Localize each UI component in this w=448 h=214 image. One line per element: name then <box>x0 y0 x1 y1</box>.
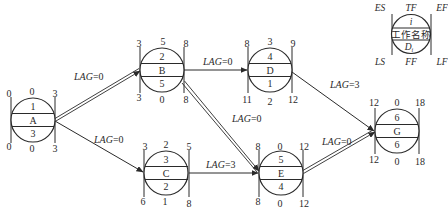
node-duration: 6 <box>395 139 400 150</box>
node-name: D <box>266 65 273 76</box>
node-ff: 2 <box>268 96 273 107</box>
node-duration: 5 <box>160 78 165 89</box>
node-ef: 5 <box>187 141 192 152</box>
legend-ef: EF <box>435 3 448 13</box>
node-ls: 0 <box>7 141 12 152</box>
node-ff: 1 <box>163 196 168 207</box>
node-es: 3 <box>143 141 148 152</box>
legend-lf: LF <box>435 57 447 67</box>
node-ls: 12 <box>369 154 379 165</box>
node-id: 3 <box>164 154 169 165</box>
node-ef: 18 <box>415 97 425 108</box>
node-es: 0 <box>7 88 12 99</box>
node-ef: 12 <box>299 141 309 152</box>
lag-label-d-g: LAG=3 <box>329 79 360 90</box>
node-id: 1 <box>31 101 36 112</box>
legend-node: ES TF EF i 工作名称 Di LS FF LF <box>374 3 448 67</box>
node-es: 8 <box>256 141 261 152</box>
link-a-c: LAG=0 <box>55 121 143 172</box>
network-diagram: LAG=0 LAG=0 LAG=0 LAG=0 LAG=3 LAG=3 LAG=… <box>0 0 448 214</box>
node-d: 4 D 1 8 3 9 11 2 12 <box>242 36 298 107</box>
node-ef: 8 <box>184 38 189 49</box>
node-id: 4 <box>268 51 273 62</box>
node-name: C <box>163 168 170 179</box>
node-tf: 2 <box>164 139 169 150</box>
node-ff: 0 <box>395 156 400 167</box>
node-duration: 3 <box>31 128 36 139</box>
lag-label-c-e: LAG=3 <box>205 159 236 170</box>
node-ls: 3 <box>137 92 142 103</box>
node-ls: 6 <box>141 196 146 207</box>
link-d-g: LAG=3 <box>292 72 374 131</box>
legend-ls: LS <box>374 57 385 67</box>
legend-ff: FF <box>404 57 417 67</box>
node-es: 8 <box>245 38 250 49</box>
node-es: 12 <box>369 97 379 108</box>
node-c: 3 C 2 3 2 5 6 1 8 <box>141 139 192 209</box>
node-ff: 0 <box>160 94 165 105</box>
node-lf: 8 <box>184 94 189 105</box>
node-b: 2 B 5 3 5 8 3 0 8 <box>137 36 189 105</box>
link-e-g: LAG=0 <box>302 130 375 174</box>
node-name: B <box>159 65 166 76</box>
node-ff: 0 <box>30 143 35 154</box>
node-tf: 3 <box>268 36 273 47</box>
node-id: 5 <box>279 154 284 165</box>
legend-tf: TF <box>405 3 416 13</box>
node-ef: 3 <box>53 88 58 99</box>
node-name: E <box>278 168 284 179</box>
legend-es: ES <box>374 3 386 13</box>
lag-label-e-g: LAG=0 <box>321 136 352 147</box>
node-ls: 11 <box>242 94 252 105</box>
link-b-d: LAG=0 <box>184 56 247 70</box>
node-lf: 12 <box>299 198 309 209</box>
node-lf: 3 <box>53 143 58 154</box>
node-duration: 4 <box>279 181 284 192</box>
node-id: 6 <box>395 112 400 123</box>
lag-label-a-c: LAG=0 <box>93 134 124 145</box>
node-g: 6 G 6 12 0 18 12 0 18 <box>369 97 425 167</box>
node-es: 3 <box>137 38 142 49</box>
node-ef: 9 <box>291 38 296 49</box>
node-ff: 0 <box>278 198 283 209</box>
node-name: G <box>393 126 400 137</box>
legend-node-id: i <box>410 17 413 27</box>
legend-node-name: 工作名称 <box>391 29 431 40</box>
node-lf: 12 <box>288 94 298 105</box>
node-tf: 0 <box>395 97 400 108</box>
node-e: 5 E 4 8 0 12 8 0 12 <box>256 141 310 209</box>
lag-label-a-b: LAG=0 <box>73 71 104 82</box>
node-a: 1 A 3 0 0 3 0 0 3 <box>7 86 58 154</box>
node-id: 2 <box>160 51 165 62</box>
node-duration: 2 <box>164 181 169 192</box>
node-lf: 18 <box>415 156 425 167</box>
node-lf: 8 <box>187 198 192 209</box>
link-a-b: LAG=0 <box>55 69 140 122</box>
node-tf: 5 <box>161 36 166 47</box>
node-duration: 1 <box>268 78 273 89</box>
lag-label-b-e: LAG=0 <box>231 113 262 124</box>
lag-label-b-d: LAG=0 <box>202 56 233 67</box>
node-tf: 0 <box>278 141 283 152</box>
node-ls: 8 <box>256 196 261 207</box>
node-name: A <box>29 115 37 126</box>
node-tf: 0 <box>30 86 35 97</box>
